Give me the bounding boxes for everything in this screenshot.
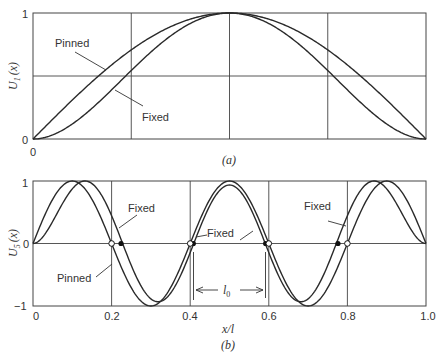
y-tick-0-a: 0 (22, 134, 28, 146)
fixed-label-b2: Fixed (207, 227, 234, 239)
panel-a: Pinned Fixed 1 0 0 U1(x) (a) (6, 8, 426, 167)
fixed-label-a: Fixed (142, 111, 169, 123)
pinned-node-marker (187, 241, 193, 247)
caption-b: (b) (221, 338, 235, 352)
y-tick-1-b: 1 (22, 177, 28, 189)
x-tick-0.2: 0.2 (104, 310, 119, 322)
x-tick-0.8: 0.8 (340, 310, 355, 322)
svg-text:U1(x): U1(x) (6, 62, 22, 90)
panel-b: l0 Fixed Pinned Fixed Fixed 1 0 −1 0 0.2… (6, 177, 436, 352)
fixed-leader-b3 (240, 231, 253, 240)
pinned-label-b: Pinned (57, 272, 91, 284)
fixed-node-marker (335, 241, 340, 246)
pinned-node-marker (109, 241, 115, 247)
pinned-leader-b (96, 264, 112, 277)
y-axis-label-b: U5(x) (6, 229, 22, 257)
pinned-node-marker (345, 241, 351, 247)
fixed-label-b3: Fixed (304, 200, 331, 212)
fixed-leader-b4 (328, 221, 346, 226)
fixed-label-b1: Fixed (128, 202, 155, 214)
x-tick-1.0: 1.0 (420, 310, 435, 322)
figure: Pinned Fixed 1 0 0 U1(x) (a) l0 F (0, 0, 447, 358)
l0-label: l0 (223, 283, 230, 299)
fixed-leader-a (115, 90, 143, 106)
x-tick-0.4: 0.4 (182, 310, 197, 322)
fixed-leader-b1 (119, 215, 137, 228)
x-tick-0: 0 (33, 310, 39, 322)
pinned-leader-a (75, 52, 106, 70)
pinned-label-a: Pinned (55, 37, 89, 49)
x-tick-0-a: 0 (30, 146, 36, 158)
x-tick-0.6: 0.6 (261, 310, 276, 322)
x-axis-label-b: x/l (221, 322, 235, 336)
pinned-node-marker (266, 241, 272, 247)
fixed-node-marker (118, 241, 123, 246)
svg-text:U5(x): U5(x) (6, 229, 22, 257)
y-tick-0-b: 0 (23, 238, 29, 250)
y-axis-label-a: U1(x) (6, 62, 22, 90)
caption-a: (a) (222, 153, 236, 167)
y-tick-neg1-b: −1 (14, 300, 27, 312)
y-tick-1-a: 1 (22, 8, 28, 20)
